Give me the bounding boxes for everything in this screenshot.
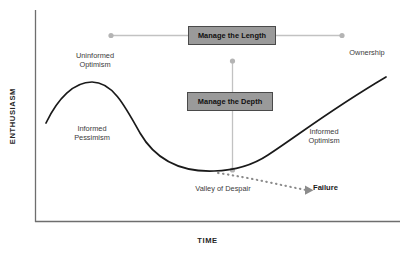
manage-depth-top-endpoint-dot	[230, 58, 235, 63]
label-informed-pessimism-line1: Informed	[77, 124, 106, 133]
manage-length-left-endpoint-dot	[108, 33, 113, 38]
label-informed-optimism-line1: Informed	[309, 127, 338, 136]
label-informed-pessimism-line2: Pessimism	[74, 133, 110, 142]
callout-manage-the-depth: Manage the Depth	[187, 92, 273, 111]
label-uninformed-optimism: Uninformed Optimism	[53, 51, 137, 70]
label-ownership: Ownership	[330, 48, 404, 57]
label-uninformed-optimism-line1: Uninformed	[76, 51, 114, 60]
manage-length-right-endpoint-dot	[339, 33, 344, 38]
x-axis-title: TIME	[0, 236, 415, 245]
label-failure: Failure	[313, 183, 357, 192]
y-axis-title: ENTHUSIASM	[8, 88, 17, 144]
label-informed-pessimism: Informed Pessimism	[50, 124, 134, 143]
callout-manage-the-length: Manage the Length	[188, 26, 276, 45]
label-valley-of-despair: Valley of Despair	[175, 184, 271, 193]
label-uninformed-optimism-line2: Optimism	[79, 60, 110, 69]
change-curve-diagram: ENTHUSIASM TIME Uninformed Optimism Info…	[0, 0, 415, 253]
label-informed-optimism-line2: Optimism	[308, 136, 339, 145]
label-informed-optimism: Informed Optimism	[285, 127, 363, 146]
